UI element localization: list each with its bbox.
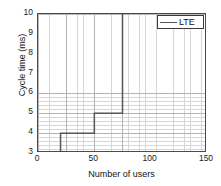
legend: LTE [157,15,204,29]
legend-line-swatch-lte [160,22,177,23]
x-axis-title: Number of users [37,169,206,179]
y-tick-label: 4 [3,127,33,136]
x-tick-label: 100 [135,154,165,163]
plot-area [37,13,206,152]
y-axis-title: Cycle time (ms) [17,5,27,125]
x-tick-label: 50 [78,154,108,163]
x-tick-label: 0 [22,154,52,163]
series-lte-path [38,14,206,152]
x-tick-label: 150 [191,154,221,163]
legend-label-lte: LTE [179,17,195,27]
figure-cycle-time-vs-users: 345678910 050100150 Cycle time (ms) Numb… [0,0,221,186]
